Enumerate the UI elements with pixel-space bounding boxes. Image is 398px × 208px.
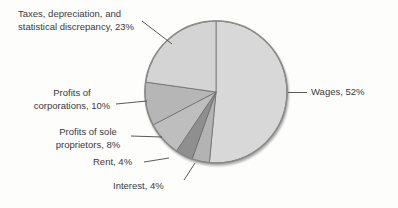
slice-label-taxes: Taxes, depreciation, and statistical dis… (18, 8, 134, 33)
slice-label-taxes-line1: Taxes, depreciation, and (18, 8, 134, 21)
slice-label-corporations-line2: corporations, 10% (28, 100, 116, 113)
leader-line-interest (184, 163, 195, 180)
slice-label-sole-proprietors: Profits of sole proprietors, 8% (46, 126, 130, 151)
leader-line-corporations (116, 101, 147, 104)
leader-line-sole-proprietors (131, 136, 162, 137)
slice-label-rent: Rent, 4% (93, 156, 132, 169)
slice-label-corporations: Profits of corporations, 10% (28, 87, 116, 112)
slice-label-interest: Interest, 4% (113, 180, 164, 193)
pie-chart-figure: Taxes, depreciation, and statistical dis… (0, 0, 398, 208)
slice-label-taxes-line2: statistical discrepancy, 23% (18, 21, 134, 34)
pie-slice-wages (209, 21, 287, 163)
slice-label-wages: Wages, 52% (311, 86, 365, 99)
pie-slices-group (145, 21, 287, 163)
slice-label-sole-proprietors-line2: proprietors, 8% (46, 139, 130, 152)
slice-label-corporations-line1: Profits of (28, 87, 116, 100)
leader-line-taxes (142, 21, 172, 44)
slice-label-rent-line1: Rent, 4% (93, 156, 132, 169)
slice-label-wages-line1: Wages, 52% (311, 86, 365, 99)
leader-line-rent (144, 158, 169, 162)
slice-label-sole-proprietors-line1: Profits of sole (46, 126, 130, 139)
slice-label-interest-line1: Interest, 4% (113, 180, 164, 193)
